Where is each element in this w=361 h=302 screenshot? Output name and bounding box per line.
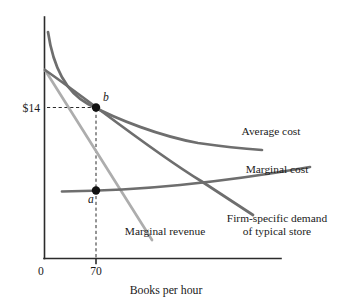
y-tick-label-price: $14 [23,102,41,115]
x-tick-label-zero: 0 [38,265,44,278]
curve-label-firm-demand-line2: of typical store [243,225,311,237]
chart-canvas: b a 0 70 $14 Books per hour Average cost… [0,0,361,302]
economics-chart-figure: b a 0 70 $14 Books per hour Average cost… [0,0,361,302]
point-b-marker [92,103,100,111]
curve-label-firm-demand-line1: Firm-specific demand [227,212,328,224]
point-a-label: a [88,193,94,206]
x-axis-title: Books per hour [130,283,203,297]
chart-background [0,0,361,302]
x-tick-label-seventy: 70 [90,265,102,278]
curve-label-average-cost: Average cost [242,125,302,137]
curve-label-marginal-revenue: Marginal revenue [125,225,205,237]
curve-label-marginal-cost: Marginal cost [246,163,310,175]
point-b-label: b [103,91,109,104]
